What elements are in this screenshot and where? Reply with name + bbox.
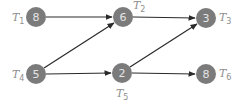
label-t4: T4 [12, 68, 24, 83]
node-t3-value: 3 [203, 12, 210, 25]
node-t1-value: 8 [33, 11, 40, 24]
label-t3: T3 [219, 11, 231, 26]
precedence-graph: 8 T1 6 T2 3 T3 5 T4 2 T5 8 T6 [0, 0, 238, 107]
edge-t5-t3 [130, 24, 197, 67]
node-t4: 5 [26, 64, 46, 84]
node-t2: 6 [113, 7, 133, 27]
node-t2-value: 6 [120, 11, 127, 24]
node-t5-value: 2 [119, 67, 126, 80]
edge-t2-t3 [133, 17, 195, 18]
node-t3: 3 [196, 8, 216, 28]
node-t4-value: 5 [33, 68, 40, 81]
node-t5: 2 [112, 63, 132, 83]
label-t2: T2 [133, 0, 145, 14]
node-t1: 8 [26, 7, 46, 27]
label-t5: T5 [116, 87, 128, 102]
node-t6-value: 8 [203, 68, 210, 81]
label-t6: T6 [219, 67, 231, 82]
edge-t4-t2 [44, 23, 114, 68]
node-t6: 8 [196, 64, 216, 84]
edge-t5-t6 [132, 73, 195, 74]
edge-t4-t5 [46, 73, 111, 74]
label-t1: T1 [12, 11, 24, 26]
